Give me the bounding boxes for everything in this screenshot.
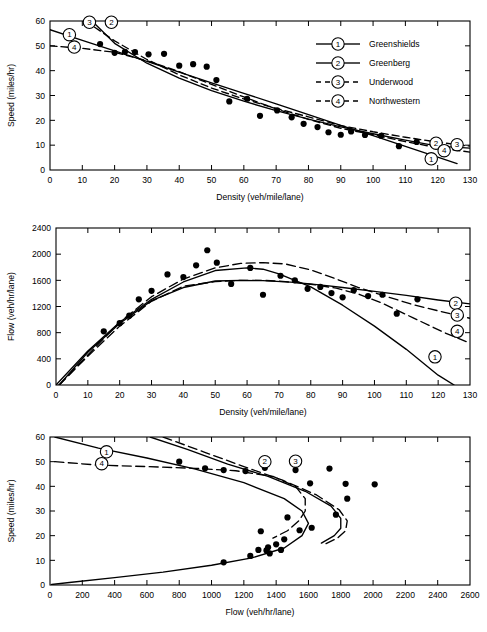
data-point	[379, 292, 385, 298]
y-tick-label: 60	[35, 432, 45, 442]
legend-badge-2: 2	[332, 57, 344, 69]
x-tick-label: 80	[304, 175, 314, 185]
data-point	[396, 143, 402, 149]
data-point	[213, 77, 219, 83]
plot-frame	[56, 228, 470, 385]
data-point	[101, 328, 107, 334]
data-point	[317, 284, 323, 290]
data-point	[314, 124, 320, 130]
y-tick-label: 40	[35, 66, 45, 76]
curve-badge-1: 1	[63, 28, 75, 40]
y-tick-label: 30	[35, 506, 45, 516]
y-tick-label: 40	[35, 482, 45, 492]
data-point	[414, 139, 420, 145]
y-tick-label: 10	[35, 140, 45, 150]
curve-badge-3: 3	[289, 455, 301, 467]
x-tick-label: 70	[274, 390, 284, 400]
data-point	[414, 296, 420, 302]
chart-panel-speed-flow: 0200400600800100012001400160018002000220…	[0, 425, 487, 632]
svg-text:1: 1	[429, 155, 434, 164]
data-point	[221, 467, 227, 473]
x-tick-label: 90	[338, 390, 348, 400]
x-tick-label: 50	[210, 390, 220, 400]
curve-badge-2: 2	[105, 16, 117, 28]
data-point	[190, 61, 196, 67]
y-tick-label: 10	[35, 556, 45, 566]
data-point	[301, 121, 307, 127]
legend-label: Greenshields	[369, 39, 420, 49]
curve-northwestern	[55, 462, 305, 538]
data-point	[145, 51, 151, 57]
data-point	[221, 559, 227, 565]
data-point	[307, 480, 313, 486]
x-tick-label: 1600	[299, 590, 318, 600]
y-tick-label: 800	[37, 328, 52, 338]
data-point	[126, 313, 132, 319]
panel-3-svg: 0200400600800100012001400160018002000220…	[0, 425, 487, 632]
data-point	[338, 132, 344, 138]
curve-badge-4: 4	[95, 457, 107, 469]
x-tick-label: 400	[107, 590, 122, 600]
y-tick-label: 20	[35, 116, 45, 126]
data-point	[325, 129, 331, 135]
x-tick-label: 10	[78, 175, 88, 185]
x-tick-label: 10	[83, 390, 93, 400]
x-tick-label: 20	[115, 390, 125, 400]
legend-badge-3: 3	[332, 76, 344, 88]
data-point	[394, 311, 400, 317]
svg-text:3: 3	[455, 140, 460, 149]
data-point	[214, 260, 220, 266]
x-tick-label: 110	[399, 390, 413, 400]
x-tick-label: 600	[140, 590, 155, 600]
x-tick-label: 1000	[202, 590, 221, 600]
svg-text:3: 3	[293, 457, 298, 466]
curve-end-badge-3: 3	[451, 309, 463, 321]
data-point	[284, 514, 290, 520]
data-point	[292, 277, 298, 283]
data-point	[351, 287, 357, 293]
y-tick-label: 400	[37, 354, 52, 364]
x-tick-label: 120	[431, 175, 446, 185]
x-tick-label: 800	[172, 590, 187, 600]
curve-end-badge-1: 1	[429, 351, 441, 363]
data-point	[247, 553, 253, 559]
legend-label: Greenberg	[369, 58, 410, 68]
data-point	[226, 98, 232, 104]
plot-area	[56, 247, 470, 385]
data-point	[277, 273, 283, 279]
svg-text:3: 3	[455, 311, 460, 320]
data-point	[267, 550, 273, 556]
x-tick-label: 80	[306, 390, 316, 400]
svg-text:4: 4	[455, 327, 460, 336]
legend-label: Northwestern	[369, 96, 420, 106]
data-point	[258, 528, 264, 534]
data-point	[378, 133, 384, 139]
curve-end-badge-4: 4	[451, 325, 463, 337]
svg-text:1: 1	[336, 40, 341, 49]
x-axis-label: Density (veh/mile/lane)	[216, 192, 304, 202]
x-tick-label: 200	[75, 590, 90, 600]
data-point	[117, 320, 123, 326]
svg-text:4: 4	[72, 43, 77, 52]
data-point	[176, 459, 182, 465]
y-tick-label: 0	[46, 380, 51, 390]
data-point	[122, 49, 128, 55]
data-point	[242, 468, 248, 474]
svg-text:4: 4	[99, 459, 104, 468]
data-point	[228, 281, 234, 287]
panel-1-svg: 0102030405060708090100110120130010203040…	[0, 0, 487, 210]
x-tick-label: 130	[463, 175, 478, 185]
x-tick-label: 40	[174, 175, 184, 185]
x-tick-label: 110	[399, 175, 413, 185]
data-point	[180, 274, 186, 280]
data-point	[281, 536, 287, 542]
x-tick-label: 30	[147, 390, 157, 400]
svg-text:1: 1	[67, 30, 72, 39]
x-tick-label: 60	[242, 390, 252, 400]
data-point	[97, 41, 103, 47]
data-point	[260, 292, 266, 298]
data-point	[161, 51, 167, 57]
x-tick-label: 0	[48, 175, 53, 185]
curve-end-badge-4: 4	[438, 144, 450, 156]
data-point	[304, 286, 310, 292]
